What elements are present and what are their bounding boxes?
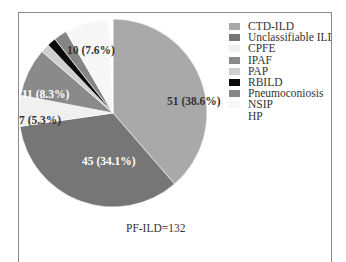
legend-item-nsip: NSIP xyxy=(229,99,332,110)
legend-swatch xyxy=(229,34,240,41)
slice-label: 11 (8.3%) xyxy=(22,88,69,101)
slice-label: 51 (38.6%) xyxy=(167,95,221,108)
legend-swatch xyxy=(229,90,240,97)
legend-swatch xyxy=(229,68,240,75)
legend-item-cpfe: CPFE xyxy=(229,43,332,54)
legend-swatch xyxy=(229,113,240,120)
legend-item-unclassifiable-ild: Unclassifiable ILD xyxy=(229,32,332,43)
slice-label: 10 (7.6%) xyxy=(67,44,115,57)
legend-item-pneumoconiosis: Pneumoconiosis xyxy=(229,88,332,99)
legend-swatch xyxy=(229,79,240,86)
legend-item-ipaf: IPAF xyxy=(229,55,332,66)
chart-frame: 51 (38.6%)45 (34.1%)7 (5.3%)11 (8.3%)10 … xyxy=(18,12,332,262)
legend-swatch xyxy=(229,23,240,30)
slice-label: 45 (34.1%) xyxy=(82,155,136,168)
legend: CTD-ILD Unclassifiable ILD CPFE IPAF PAP… xyxy=(229,21,332,122)
legend-swatch xyxy=(229,57,240,64)
legend-swatch xyxy=(229,101,240,108)
total-label: PF-ILD=132 xyxy=(126,222,186,234)
legend-swatch xyxy=(229,45,240,52)
slice-label: 7 (5.3%) xyxy=(19,114,61,127)
legend-item-hp: HP xyxy=(229,111,332,122)
